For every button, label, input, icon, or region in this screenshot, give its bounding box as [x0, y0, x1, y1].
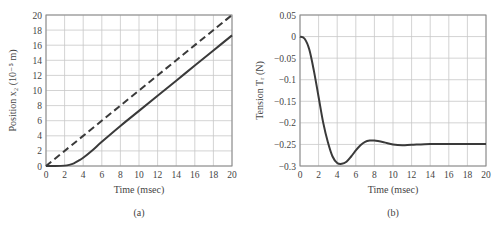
y-tick-label: −0.15	[274, 97, 296, 107]
y-tick-label: 0	[37, 162, 42, 172]
x-tick-label: 14	[425, 170, 435, 180]
y-tick-label: 18	[33, 26, 43, 36]
y-tick-label: 8	[37, 101, 42, 111]
x-tick-label: 8	[118, 170, 123, 180]
x-tick-label: 18	[209, 170, 219, 180]
x-tick-label: 2	[316, 170, 321, 180]
x-tick-label: 0	[44, 170, 49, 180]
y-tick-label: 4	[37, 131, 42, 141]
x-tick-label: 10	[388, 170, 398, 180]
x-tick-label: 4	[81, 170, 86, 180]
y-tick-label: 2	[37, 146, 42, 156]
position-chart: 0246810121416182002468101214161820Time (…	[7, 11, 237, 220]
y-axis-label: Tension Tᵣ (N)	[254, 61, 266, 120]
x-tick-label: 2	[62, 170, 67, 180]
x-tick-label: 12	[407, 170, 417, 180]
y-tick-label: 12	[33, 71, 43, 81]
y-tick-label: −0.05	[274, 54, 296, 64]
y-tick-label: 20	[33, 11, 43, 21]
x-tick-label: 20	[227, 170, 237, 180]
x-tick-label: 16	[190, 170, 200, 180]
y-tick-label: −0.2	[279, 118, 296, 128]
y-tick-label: −0.3	[279, 162, 296, 172]
x-tick-label: 14	[171, 170, 181, 180]
x-tick-label: 6	[353, 170, 358, 180]
figure: 0246810121416182002468101214161820Time (…	[0, 0, 499, 228]
x-axis-label: Time (msec)	[368, 184, 418, 196]
x-tick-label: 16	[444, 170, 454, 180]
x-tick-label: 18	[463, 170, 473, 180]
y-tick-label: 0.05	[279, 11, 296, 21]
tension-chart: 024681012141618200.050−0.05−0.1−0.15−0.2…	[254, 11, 491, 220]
x-tick-label: 4	[335, 170, 340, 180]
x-axis-label: Time (msec)	[114, 184, 164, 196]
y-tick-label: 0	[291, 32, 296, 42]
x-tick-label: 6	[99, 170, 104, 180]
y-tick-label: −0.1	[279, 75, 296, 85]
panel-caption: (a)	[133, 207, 144, 219]
y-tick-label: −0.25	[274, 140, 296, 150]
x-tick-label: 0	[298, 170, 303, 180]
x-tick-label: 8	[372, 170, 377, 180]
y-tick-label: 10	[33, 86, 43, 96]
x-tick-label: 12	[153, 170, 163, 180]
panel-caption: (b)	[387, 207, 399, 219]
x-tick-label: 10	[134, 170, 144, 180]
y-tick-label: 6	[37, 116, 42, 126]
y-axis-label: Position x₂ (10⁻⁵ m)	[7, 50, 19, 132]
x-tick-label: 20	[481, 170, 491, 180]
y-tick-label: 16	[33, 41, 43, 51]
y-tick-label: 14	[33, 56, 43, 66]
